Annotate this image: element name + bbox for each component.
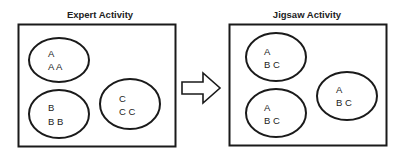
group-ellipse [100, 79, 160, 129]
group-label-bottom: C C [119, 106, 136, 117]
expert-group-b: B B B [29, 90, 89, 138]
jigsaw-group-1: A B C [246, 33, 306, 81]
group-label-bottom: B B [48, 116, 63, 127]
group-label-top: A [264, 46, 271, 57]
expert-group-c: C C C [100, 79, 160, 129]
group-label-bottom: A A [48, 61, 63, 72]
group-label-bottom: B C [336, 97, 352, 108]
expert-activity-panel: Expert Activity A A A B B B C C C [19, 9, 176, 147]
jigsaw-group-2: A B C [246, 89, 306, 137]
expert-group-a: A A A [29, 38, 89, 82]
group-ellipse [29, 38, 89, 82]
diagram-canvas: Expert Activity A A A B B B C C C Jigsaw… [0, 0, 404, 154]
group-label-top: A [336, 84, 343, 95]
jigsaw-activity-title: Jigsaw Activity [273, 9, 342, 20]
group-label-bottom: B C [264, 59, 280, 70]
jigsaw-activity-panel: Jigsaw Activity A B C A B C A B C [230, 9, 387, 146]
group-label-top: A [264, 102, 271, 113]
group-label-bottom: B C [264, 115, 280, 126]
group-label-top: B [48, 102, 54, 113]
jigsaw-group-3: A B C [317, 72, 377, 120]
group-label-top: C [119, 93, 126, 104]
group-label-top: A [48, 48, 55, 59]
jigsaw-diagram: Expert Activity A A A B B B C C C Jigsaw… [0, 0, 404, 154]
group-ellipse [29, 90, 89, 138]
group-ellipse [246, 89, 306, 137]
group-ellipse [246, 33, 306, 81]
group-ellipse [317, 72, 377, 120]
expert-activity-title: Expert Activity [67, 9, 134, 20]
right-arrow-icon [182, 73, 220, 103]
